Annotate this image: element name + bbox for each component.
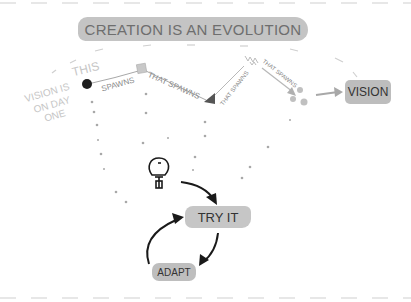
try-it-node: TRY IT bbox=[185, 206, 251, 228]
this-dot bbox=[82, 79, 92, 89]
diagram-canvas: CREATION IS AN EVOLUTION THIS VISION IS … bbox=[0, 0, 411, 302]
lightbulb-icon bbox=[149, 158, 168, 188]
funnel-dots bbox=[91, 93, 291, 204]
diagram-lines bbox=[0, 0, 411, 302]
adapt-node: ADAPT bbox=[152, 263, 196, 281]
title-banner: CREATION IS AN EVOLUTION bbox=[78, 17, 308, 41]
vision-node: VISION bbox=[345, 80, 391, 104]
